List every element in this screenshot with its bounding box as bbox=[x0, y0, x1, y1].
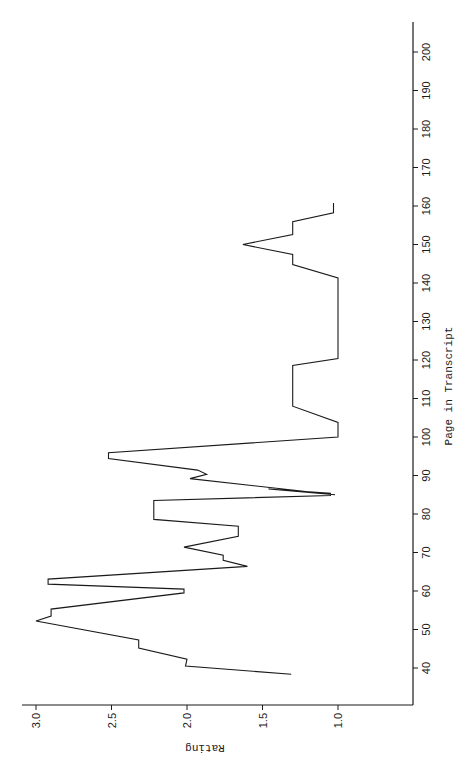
page-tick-label: 110 bbox=[420, 390, 432, 408]
rating-tick-label: 2.5 bbox=[106, 713, 118, 728]
page-tick-label: 50 bbox=[420, 623, 432, 635]
page-tick-label: 140 bbox=[420, 274, 432, 292]
page-tick-label: 100 bbox=[420, 428, 432, 446]
page-tick-label: 160 bbox=[420, 197, 432, 215]
rating-axis-title: Rating bbox=[185, 742, 225, 754]
page-tick-label: 200 bbox=[420, 43, 432, 61]
page-tick-label: 190 bbox=[420, 81, 432, 99]
page-tick-label: 130 bbox=[420, 312, 432, 330]
rating-tick-label: 3.0 bbox=[30, 713, 42, 728]
rotated-line-chart: 3.02.52.01.51.0 405060708090100110120130… bbox=[0, 0, 462, 777]
page-tick-label: 70 bbox=[420, 546, 432, 558]
page-axis-title: Page in Transcript bbox=[443, 327, 455, 446]
page-tick-label: 40 bbox=[420, 662, 432, 674]
page-tick-label: 60 bbox=[420, 585, 432, 597]
page-tick-label: 150 bbox=[420, 235, 432, 253]
rating-tick-label: 1.5 bbox=[257, 713, 269, 728]
page-tick-label: 120 bbox=[420, 351, 432, 369]
rating-tick-label: 1.0 bbox=[332, 713, 344, 728]
rating-tick-label: 2.0 bbox=[181, 713, 193, 728]
page-tick-label: 90 bbox=[420, 469, 432, 481]
rating-axis-ticks: 3.02.52.01.51.0 bbox=[30, 705, 344, 728]
page-tick-label: 170 bbox=[420, 158, 432, 176]
page-axis-ticks: 4050607080901001101201301401501601701801… bbox=[413, 43, 432, 674]
page-tick-label: 180 bbox=[420, 120, 432, 138]
page-tick-label: 80 bbox=[420, 508, 432, 520]
rating-series-line bbox=[36, 203, 338, 674]
